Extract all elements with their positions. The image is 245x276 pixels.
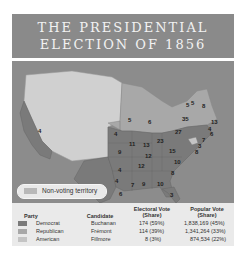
state-electoral-label: 4	[38, 128, 41, 134]
table-row: Democrat Buchanan 174 (59%) 1,838,169 (4…	[12, 220, 234, 227]
party-name: Democrat	[36, 220, 60, 227]
state-electoral-label: 11	[129, 141, 135, 147]
state-electoral-label: 6	[210, 131, 213, 137]
state-electoral-label: 13	[143, 142, 150, 148]
map-title: THE PRESIDENTIAL ELECTION OF 1856	[12, 14, 234, 58]
header-party: Party	[24, 213, 38, 219]
title-line-2: ELECTION OF 1856	[12, 36, 234, 53]
election-map-panel: THE PRESIDENTIAL ELECTION OF 1856 445641…	[12, 14, 234, 246]
electoral-vote: 8 (3%)	[145, 236, 161, 243]
title-line-1: THE PRESIDENTIAL	[12, 19, 234, 36]
party-name: American	[36, 236, 59, 243]
state-electoral-label: 8	[171, 170, 174, 176]
state-electoral-label: 23	[157, 138, 164, 144]
state-electoral-label: 15	[169, 148, 176, 154]
header-candidate: Candidate	[82, 213, 118, 219]
popular-vote: 874,534 (22%)	[190, 236, 226, 243]
state-electoral-label: 5	[186, 102, 189, 108]
state-electoral-label: 4	[114, 131, 117, 137]
state-electoral-label: 5	[191, 100, 194, 106]
state-electoral-label: 35	[182, 116, 189, 122]
state-electoral-label: 6	[148, 119, 151, 125]
party-swatch	[18, 237, 27, 242]
party-swatch	[18, 229, 27, 234]
candidate-name: Buchanan	[91, 220, 116, 227]
state-electoral-label: 5	[128, 117, 131, 123]
table-row: American Fillmore 8 (3%) 874,534 (22%)	[12, 236, 234, 243]
candidate-name: Fillmore	[91, 236, 111, 243]
party-name: Republican	[36, 228, 64, 235]
state-electoral-label: 12	[138, 163, 145, 169]
electoral-vote: 174 (59%)	[139, 220, 164, 227]
us-map: 4456411132327355581346738912151012487910…	[12, 61, 234, 203]
header-electoral: Electoral Vote (Share)	[130, 206, 174, 218]
state-electoral-label: 10	[174, 159, 181, 165]
popular-vote: 1,341,264 (33%)	[185, 228, 226, 235]
state-electoral-label: 6	[119, 191, 122, 197]
state-electoral-label: 13	[211, 119, 218, 125]
state-electoral-label: 12	[145, 153, 152, 159]
state-electoral-label: 3	[198, 143, 201, 149]
state-electoral-label: 3	[170, 192, 173, 198]
state-electoral-label: 10	[157, 181, 164, 187]
state-electoral-label: 8	[202, 103, 205, 109]
table-row: Republican Frémont 114 (39%) 1,341,264 (…	[12, 228, 234, 235]
state-electoral-label: 9	[142, 181, 145, 187]
state-electoral-label: 9	[118, 149, 121, 155]
candidate-name: Frémont	[91, 228, 111, 235]
state-electoral-label: 7	[131, 182, 134, 188]
state-electoral-label: 27	[175, 129, 182, 135]
legend-label: Non-voting territory	[42, 187, 97, 194]
state-electoral-label: 4	[115, 178, 118, 184]
state-electoral-label: 7	[202, 137, 205, 143]
map-legend: Non-voting territory	[17, 184, 107, 199]
electoral-vote: 114 (39%)	[139, 228, 164, 235]
state-electoral-label: 8	[195, 149, 198, 155]
popular-vote: 1,838,169 (45%)	[184, 220, 225, 227]
header-popular: Popular Vote (Share)	[184, 206, 230, 218]
party-swatch	[18, 221, 27, 226]
state-electoral-label: 4	[118, 167, 121, 173]
results-table: Party Candidate Electoral Vote (Share) P…	[12, 203, 234, 246]
territory-swatch	[24, 188, 37, 194]
map-shapes	[12, 61, 234, 203]
